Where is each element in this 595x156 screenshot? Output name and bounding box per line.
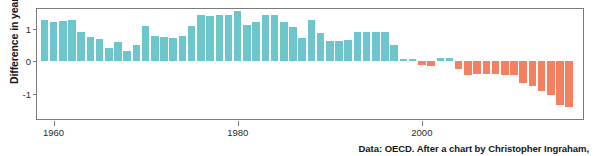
y-axis-label: Difference in years (8, 0, 20, 98)
chart-bar (501, 61, 509, 75)
chart-bar (169, 38, 177, 61)
chart-bar (87, 37, 95, 62)
chart-bar (464, 61, 472, 75)
chart-bar (437, 58, 445, 61)
chart-bar (77, 32, 85, 61)
chart-bar (372, 32, 380, 61)
chart-bar (197, 15, 205, 61)
x-tick-label: 1960 (43, 127, 64, 138)
chart-bar (206, 16, 214, 62)
chart-bar (243, 25, 251, 62)
chart-bar (455, 61, 463, 68)
chart-bar (308, 20, 316, 61)
chart-bar (160, 37, 168, 61)
chart-bar (427, 61, 435, 65)
chart-bar (142, 26, 150, 61)
chart-bar (409, 59, 417, 61)
x-tick-label: 1980 (227, 127, 248, 138)
chart-bar (179, 36, 187, 62)
y-tick-label: 1 (13, 24, 31, 35)
chart-bar (280, 22, 288, 62)
y-tick-mark (33, 61, 37, 62)
chart-bar (344, 40, 352, 61)
y-tick-mark (33, 94, 37, 95)
plot-area: 10-1196019802000 (36, 8, 584, 120)
x-tick-mark (238, 121, 239, 126)
chart-bar (326, 41, 334, 61)
chart-bar (510, 61, 518, 75)
chart-bar (41, 20, 49, 61)
chart-bar (271, 15, 279, 61)
chart-bar (298, 38, 306, 61)
chart-bar (556, 61, 564, 105)
chart-bar (483, 61, 491, 74)
y-tick-mark (33, 29, 37, 30)
chart-bar (473, 61, 481, 74)
chart-bar (317, 33, 325, 61)
chart-bar (68, 20, 76, 61)
chart-bar (225, 15, 233, 61)
chart-bar (519, 61, 527, 83)
chart-bar (59, 21, 67, 61)
x-tick-mark (54, 121, 55, 126)
chart-bar (234, 11, 242, 61)
chart-caption: Data: OECD. After a chart by Christopher… (359, 143, 589, 154)
chart-bar (390, 45, 398, 61)
chart-bar (492, 61, 500, 74)
chart-bar (252, 22, 260, 61)
chart-bar (262, 15, 270, 61)
chart-bar (400, 59, 408, 61)
chart-bar (188, 26, 196, 62)
chart-bar (151, 36, 159, 62)
chart-bar (335, 41, 343, 62)
chart-bar (529, 61, 537, 86)
chart-bar (547, 61, 555, 95)
chart-bar (133, 45, 141, 62)
chart-bar (216, 15, 224, 61)
x-tick-label: 2000 (411, 127, 432, 138)
x-tick-mark (422, 121, 423, 126)
chart-bar (96, 39, 104, 62)
chart-bar (418, 61, 426, 65)
chart-bar (123, 51, 131, 61)
chart-bar (363, 32, 371, 62)
chart-bar (538, 61, 546, 91)
y-tick-label: -1 (13, 88, 31, 99)
chart-bar (114, 42, 122, 62)
chart-bar (381, 32, 389, 61)
chart-bar (105, 48, 113, 62)
chart-figure: Difference in years 10-1196019802000 Dat… (0, 0, 595, 156)
chart-bar (565, 61, 573, 107)
y-tick-label: 0 (13, 56, 31, 67)
chart-bar (50, 22, 58, 61)
chart-bar (446, 58, 454, 62)
chart-bar (289, 27, 297, 61)
chart-bar (354, 32, 362, 62)
